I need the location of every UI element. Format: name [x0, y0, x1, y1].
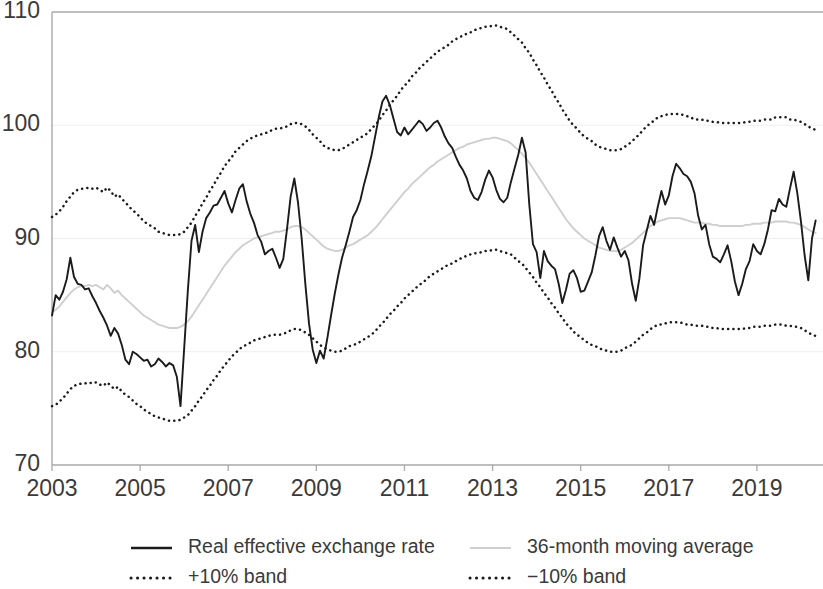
x-tick-label: 2009 [291, 475, 342, 501]
series-line-3 [52, 26, 816, 236]
legend-label-1: Real effective exchange rate [188, 535, 435, 557]
chart-legend: Real effective exchange rate36-month mov… [131, 535, 754, 587]
legend-label-3: +10% band [188, 565, 287, 587]
x-tick-label: 2007 [203, 475, 254, 501]
y-tick-label: 80 [14, 337, 40, 363]
legend-label-2: 36-month moving average [527, 535, 754, 557]
x-tick-label: 2019 [731, 475, 782, 501]
chart-svg: 708090100110 200320052007200920112013201… [0, 0, 823, 589]
x-axis-tick-labels: 200320052007200920112013201520172019 [26, 475, 782, 501]
x-tick-label: 2005 [115, 475, 166, 501]
x-tick-label: 2003 [26, 475, 77, 501]
x-tick-label: 2013 [467, 475, 518, 501]
legend-label-4: −10% band [527, 565, 626, 587]
series-line-1 [52, 96, 816, 406]
series-line-4 [52, 250, 816, 421]
x-axis [52, 12, 823, 471]
x-tick-label: 2015 [555, 475, 606, 501]
y-tick-label: 110 [3, 0, 40, 23]
chart-container: 708090100110 200320052007200920112013201… [0, 0, 823, 589]
y-tick-label: 70 [14, 450, 40, 476]
y-tick-label: 90 [14, 224, 40, 250]
data-series-group [52, 26, 816, 421]
y-axis-tick-labels: 708090100110 [2, 0, 40, 476]
y-tick-label: 100 [2, 110, 40, 136]
x-tick-label: 2011 [380, 475, 429, 501]
x-tick-label: 2017 [643, 475, 694, 501]
series-line-2 [52, 138, 816, 328]
